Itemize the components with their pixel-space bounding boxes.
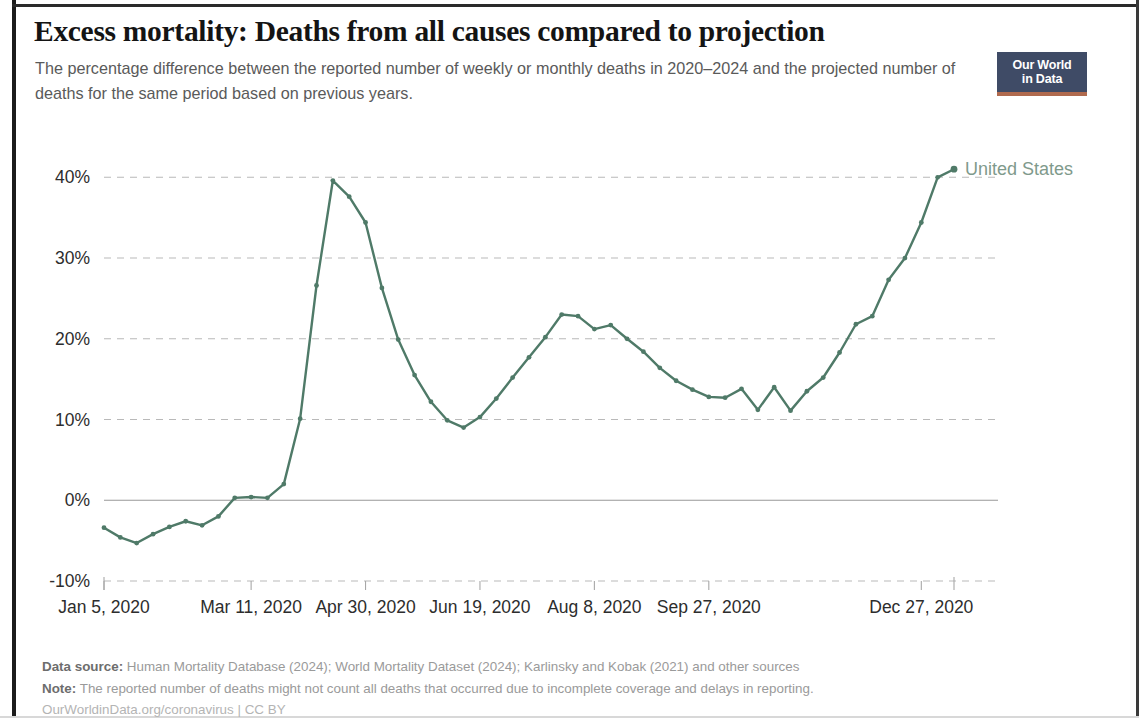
data-point[interactable] [788,408,793,413]
data-point[interactable] [216,514,221,519]
data-point[interactable] [510,375,515,380]
y-axis-tick-label: 30% [55,248,90,268]
data-point[interactable] [543,335,548,340]
chart-title: Excess mortality: Deaths from all causes… [34,15,825,48]
data-point[interactable] [886,277,891,282]
data-point[interactable] [232,495,237,500]
footer-license[interactable]: OurWorldinData.org/coronavirus | CC BY [42,699,1092,718]
chart-subtitle: The percentage difference between the re… [35,56,985,106]
data-point[interactable] [772,385,777,390]
data-point[interactable] [134,541,139,546]
data-point[interactable] [706,395,711,400]
data-point[interactable] [167,525,172,530]
chart-card: Excess mortality: Deaths from all causes… [16,8,1136,716]
data-point[interactable] [396,337,401,342]
data-point[interactable] [478,415,483,420]
data-point[interactable] [690,387,695,392]
line-chart-svg: -10%0%10%20%30%40%Jan 5, 2020Mar 11, 202… [16,113,1136,653]
data-point[interactable] [118,535,123,540]
data-point[interactable] [102,525,107,530]
series-end-label-united-states[interactable]: United States [965,159,1073,179]
data-point[interactable] [674,378,679,383]
y-axis-tick-label: 20% [55,329,90,349]
logo-line-1: Our World [1012,58,1071,72]
plot-area: -10%0%10%20%30%40%Jan 5, 2020Mar 11, 202… [16,113,1136,653]
data-point[interactable] [559,312,564,317]
data-point[interactable] [527,355,532,360]
data-point[interactable] [330,178,335,183]
data-point[interactable] [625,336,630,341]
x-axis-tick-label: Sep 27, 2020 [657,597,761,617]
page-margin-left [0,0,10,718]
footer-data-source-text: Human Mortality Database (2024); World M… [123,659,799,674]
data-point[interactable] [919,220,924,225]
data-point[interactable] [363,220,368,225]
data-point[interactable] [723,395,728,400]
data-point[interactable] [576,314,581,319]
data-point[interactable] [494,396,499,401]
x-axis-tick-label: Apr 30, 2020 [315,597,415,617]
footer-data-source: Data source: Human Mortality Database (2… [42,656,1092,678]
chart-page: Excess mortality: Deaths from all causes… [0,0,1139,718]
data-point[interactable] [445,418,450,423]
data-point[interactable] [641,349,646,354]
data-point[interactable] [739,386,744,391]
data-point[interactable] [461,425,466,430]
x-axis-tick-label: Aug 8, 2020 [547,597,642,617]
data-point[interactable] [903,256,908,261]
data-point[interactable] [608,323,613,328]
data-point[interactable] [837,350,842,355]
data-point[interactable] [151,532,156,537]
y-axis-tick-label: -10% [49,571,90,591]
data-point[interactable] [298,416,303,421]
data-point[interactable] [379,286,384,291]
data-point[interactable] [347,194,352,199]
y-axis-tick-label: 0% [65,490,90,510]
x-axis-tick-label: Jun 19, 2020 [429,597,530,617]
data-point[interactable] [200,523,205,528]
x-axis-tick-label: Jan 5, 2020 [58,597,150,617]
data-point[interactable] [804,389,809,394]
data-point[interactable] [281,482,286,487]
data-point[interactable] [429,399,434,404]
our-world-in-data-logo[interactable]: Our World in Data [997,52,1087,96]
data-point[interactable] [854,322,859,327]
data-point[interactable] [657,365,662,370]
footer-data-source-label: Data source: [42,659,123,674]
data-point[interactable] [870,314,875,319]
logo-line-2: in Data [1022,72,1062,86]
data-point[interactable] [265,495,270,500]
footer-note: Note: The reported number of deaths migh… [42,678,1092,700]
y-axis-tick-label: 10% [55,410,90,430]
x-axis-tick-label: Dec 27, 2020 [869,597,973,617]
data-point[interactable] [412,373,417,378]
data-point[interactable] [249,495,254,500]
footer-note-label: Note: [42,681,76,696]
chart-footer: Data source: Human Mortality Database (2… [42,656,1092,718]
data-point[interactable] [314,283,319,288]
data-point[interactable] [755,407,760,412]
data-point[interactable] [592,327,597,332]
page-border-top [12,4,1139,7]
data-point[interactable] [935,175,940,180]
data-point[interactable] [183,519,188,524]
data-point[interactable] [821,375,826,380]
series-end-marker[interactable] [951,166,958,173]
footer-note-text: The reported number of deaths might not … [76,681,813,696]
x-axis-tick-label: Mar 11, 2020 [200,597,302,617]
y-axis-tick-label: 40% [55,167,90,187]
